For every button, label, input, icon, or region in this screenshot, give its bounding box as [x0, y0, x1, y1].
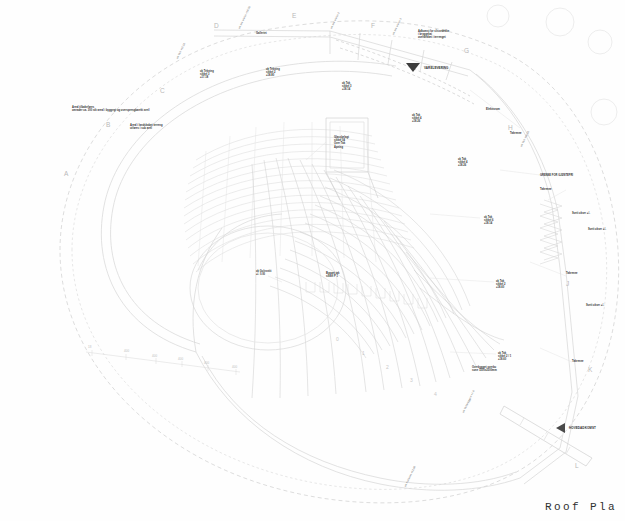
grid-letter-e: E	[292, 12, 296, 20]
hovedadkomst-label: HOVEDADKOMST	[569, 426, 596, 430]
dimension-tick-label: 400	[124, 350, 129, 354]
grid-letter-d: D	[214, 22, 219, 30]
roof-plan-drawing	[0, 0, 625, 521]
upper-terraces	[184, 129, 414, 272]
overbygget: Overbygget overbu sone 1500x2500mm	[472, 366, 497, 372]
varelevering-label: VARELEVERING	[424, 66, 449, 70]
grid-letter-h: H	[508, 124, 513, 132]
south-edge	[196, 352, 520, 490]
grid-letter-f: F	[371, 22, 375, 30]
roof-note-j2: ok Tak sikkel 2 +18.60	[496, 280, 506, 290]
roof-note-g1: ok Tak sikkel 4 +18.26	[412, 114, 422, 124]
arrow-left-icon	[556, 423, 565, 433]
dimension-tick-label: 400	[232, 366, 237, 370]
varelevering-marker: VARELEVERING	[406, 58, 449, 76]
grid-letter-c: C	[160, 87, 165, 95]
sveit-2: Sveit okser +/-	[588, 228, 606, 231]
takrenne-3: Takrenne	[566, 272, 578, 275]
roof-box-note: Glassbelagt sikkel 04 Over Tak Åpning	[334, 136, 349, 149]
roof-note-c2: uk Tekning sikkel 2 +18.80	[266, 68, 280, 78]
takrenne-2: Takrenne	[540, 188, 552, 191]
seat-row-marker-0: 0	[336, 336, 339, 342]
center-note: ok Gulvsnitt +/- 0.00	[256, 270, 271, 276]
seat-row-marker-1: 1	[362, 350, 365, 356]
roof-rib-fan	[270, 170, 470, 358]
roof-note-g2: ok Tak sikkel 4 +18.26	[458, 158, 468, 168]
takrenne-4: Takrenne	[572, 360, 584, 363]
grid-letter-b: B	[106, 121, 110, 129]
hovedadkomst-marker: HOVEDADKOMST	[556, 418, 596, 436]
roof-ribs	[252, 158, 504, 398]
elevator-note: Elektrorom	[486, 108, 500, 111]
adkomst-note: Adkomst for slissedekke i bryggekai over…	[418, 30, 449, 40]
seat-row-marker-4: 4	[434, 391, 437, 397]
takrenne-1: Takrenne	[510, 132, 522, 135]
landscape-trees	[487, 5, 617, 125]
roof-note-c1: uk Tekning sikkel 3 +17.18	[200, 70, 214, 80]
arena-floor	[190, 214, 346, 350]
grid-letter-k: K	[588, 366, 592, 374]
galleri-note: Galleriet	[256, 32, 267, 35]
roof-note-k1: ok Tak sikkel 2 / 1 +18.60	[498, 352, 511, 362]
grid-letter-g: G	[464, 47, 469, 55]
sheet-title: Roof Pla	[545, 501, 617, 513]
roof-note-j1: ok Tak sikkel 6 +18.14	[484, 216, 494, 226]
dimension-tick-label: 18	[88, 346, 91, 350]
sveit-3: Sveit okser +/-	[586, 304, 604, 307]
site-note-left: Areal tilbakeføres omrader ca. 300 stk a…	[72, 106, 149, 112]
arrow-down-icon	[406, 63, 420, 72]
gjeste-note: GRENSE FOR GJØSTEFRI	[540, 174, 573, 177]
site-note-left2: Areal i landskabet terreng utføres i sub…	[130, 124, 163, 130]
east-sawtooth	[540, 200, 562, 264]
seat-row-marker-2: 2	[386, 364, 389, 370]
grid-letter-l: L	[575, 462, 579, 470]
stage-note: Bygget tak sikkel P 1	[326, 272, 340, 278]
sveit-1: Sveit okser +/-	[572, 212, 590, 215]
dimension-tick-label: 400	[152, 355, 157, 359]
drawing-sheet: ABCDEFGHJKL 01234 18400400400400400 uk T…	[0, 0, 625, 521]
seat-row-marker-3: 3	[410, 377, 413, 383]
dimension-tick-label: 400	[178, 358, 183, 362]
grid-letter-j: J	[566, 280, 569, 288]
dimension-tick-label: 400	[204, 362, 209, 366]
grid-letter-a: A	[64, 170, 68, 178]
roof-note-f1: ok Tak sikkel 3 +18.14	[342, 82, 352, 92]
